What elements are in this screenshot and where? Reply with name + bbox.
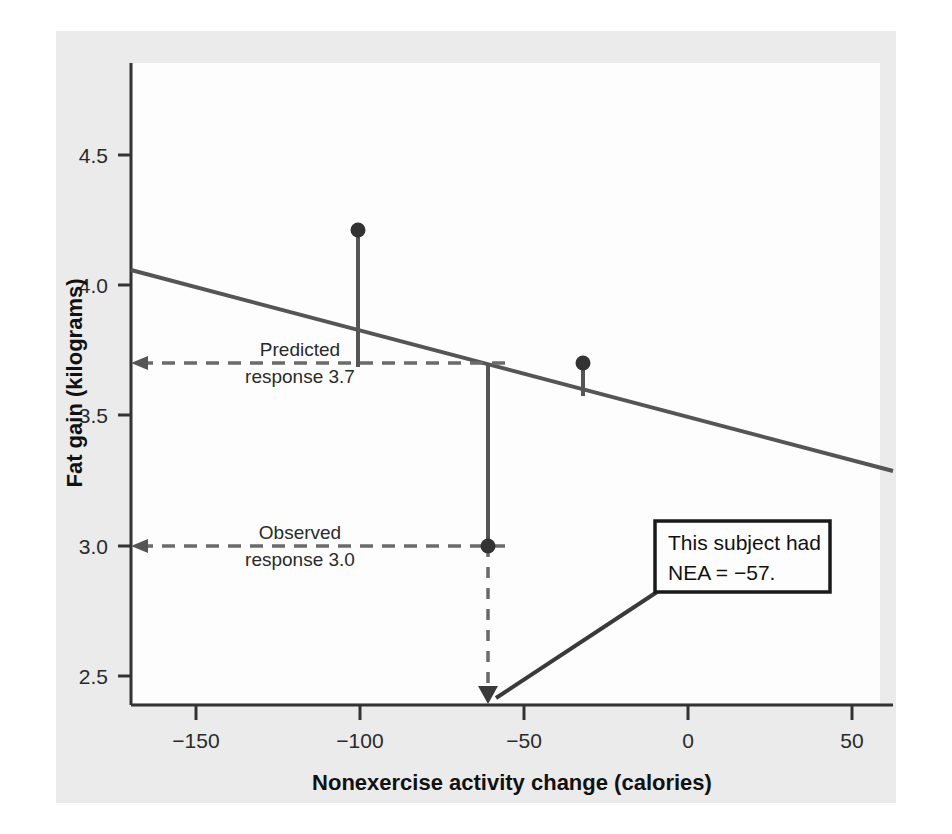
y-tick-label-2-5: 2.5: [79, 665, 108, 688]
callout-leader-line: [496, 592, 657, 698]
drop-line-annotation: [478, 546, 498, 704]
y-tick-label-4-5: 4.5: [79, 144, 108, 167]
x-tick-label-50: 50: [840, 729, 863, 752]
y-axis-title: Fat gain (kilograms): [62, 278, 87, 487]
observed-label-line1: Observed: [259, 522, 341, 543]
observed-arrowhead-icon: [131, 539, 148, 553]
callout-text-line2: NEA = −57.: [668, 561, 775, 584]
callout-annotation: This subject had NEA = −57.: [496, 521, 830, 698]
data-point-right: [576, 356, 591, 371]
x-axis-ticks: −150 −100 −50 0 50: [172, 705, 863, 752]
data-point-highlighted-subject: [481, 539, 496, 554]
y-tick-label-3-0: 3.0: [79, 535, 108, 558]
predicted-response-annotation: Predicted response 3.7: [131, 339, 506, 387]
callout-text-line1: This subject had: [668, 531, 821, 554]
x-tick-label-neg50: −50: [506, 729, 542, 752]
x-tick-label-neg150: −150: [172, 729, 219, 752]
data-points-group: [351, 223, 591, 554]
x-tick-label-0: 0: [682, 729, 694, 752]
predicted-label-line2: response 3.7: [245, 366, 355, 387]
x-tick-label-neg100: −100: [336, 729, 383, 752]
regression-residual-chart: 4.5 4.0 3.5 3.0 2.5 −150 −100 −50 0 50 N…: [0, 0, 952, 834]
observed-label-line2: response 3.0: [245, 549, 355, 570]
drop-line-arrowhead-icon: [478, 686, 498, 704]
predicted-arrowhead-icon: [131, 356, 148, 370]
observed-response-annotation: Observed response 3.0: [131, 522, 506, 570]
data-point-upper-left: [351, 223, 366, 238]
figure-container: 4.5 4.0 3.5 3.0 2.5 −150 −100 −50 0 50 N…: [0, 0, 952, 834]
predicted-label-line1: Predicted: [260, 339, 340, 360]
residual-segments-group: [358, 230, 583, 546]
x-axis-title: Nonexercise activity change (calories): [312, 770, 712, 795]
